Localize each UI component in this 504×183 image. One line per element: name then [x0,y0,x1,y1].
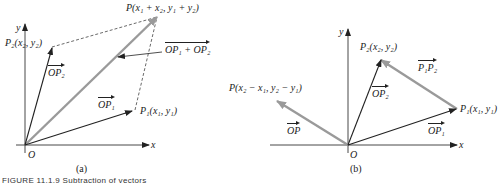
x-axis-label-a: x [151,140,155,150]
label-op1-plus-op2: OP₁ + OP₂ [165,41,210,55]
y-axis-label-b: y [339,27,343,37]
label-p1p2: P₁P₂ [418,59,437,73]
figure-caption: FIGURE 11.1.9 Subtraction of vectors [2,176,147,183]
sum-pointer-arrow [118,52,162,57]
label-point-p-diff: P(x₂ − x₁, y₂ − y₁) [229,83,302,93]
label-point-p1-b: P₁(x₁, y₁) [460,104,497,114]
label-op2-b: OP₂ [372,85,389,99]
label-point-p2-b: P₂(x₂, y₂) [360,42,397,52]
label-op2-a: OP₂ [48,64,65,78]
label-point-p1-a: P₁(x₁, y₁) [140,106,177,116]
panel-b-tag: (b) [350,163,362,174]
y-axis-label-a: y [16,23,20,33]
origin-label-a: O [28,150,35,160]
vector-op2-b [348,60,381,145]
label-op1-a: OP₁ [98,96,115,110]
origin-label-b: O [350,150,357,160]
label-op-b: OP [287,122,300,136]
dashed-p1-to-p [135,17,157,110]
label-point-p-sum: P(x₁ + x₂, y₁ + y₂) [126,3,199,13]
x-axis-label-b: x [459,140,463,150]
label-point-p2-a: P₂(x₂, y₂) [5,38,42,48]
panel-a-tag: (a) [76,163,87,174]
label-op1-b: OP₁ [428,122,445,136]
